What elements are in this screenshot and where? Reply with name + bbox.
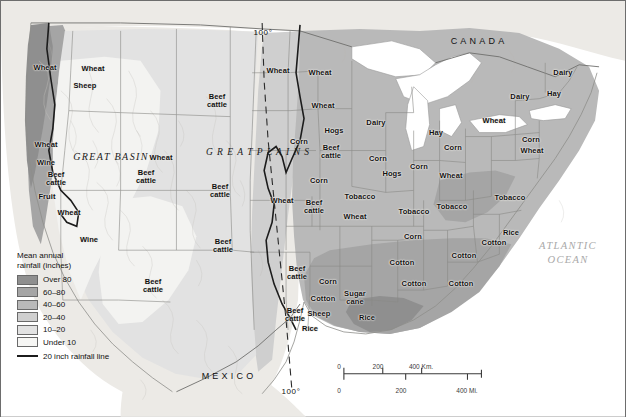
scale-km-200: 200 bbox=[373, 363, 384, 370]
legend-swatch bbox=[17, 275, 38, 285]
legend-swatch bbox=[17, 337, 38, 347]
legend-row: 40–60 bbox=[17, 299, 109, 310]
country-label-mexico: MEXICO bbox=[202, 371, 257, 381]
crop-label: Wheat bbox=[312, 102, 335, 110]
crop-label: Wheat bbox=[35, 141, 58, 149]
legend-swatch bbox=[17, 312, 38, 322]
crop-label: Wheat bbox=[440, 172, 463, 180]
crop-label: Hay bbox=[429, 129, 443, 137]
crop-label: Beef cattle bbox=[213, 238, 233, 255]
crop-label: Corn bbox=[290, 138, 308, 146]
region-label-great-plains: G R E A T P L A I N S bbox=[206, 147, 310, 159]
crop-label: Wheat bbox=[521, 147, 544, 155]
rainfall-line-swatch bbox=[17, 355, 38, 357]
crop-label: Wheat bbox=[483, 117, 506, 125]
crop-label: Rice bbox=[302, 325, 318, 333]
legend-class-list: Over 8060–8040–6020–4010–20Under 10 bbox=[17, 274, 109, 348]
crop-label: Hogs bbox=[382, 170, 401, 178]
meridian-label-bottom: 100° bbox=[282, 387, 301, 396]
rainfall-agriculture-map: CANADA MEXICO ATLANTIC OCEAN Gulf of Mex… bbox=[0, 0, 626, 417]
crop-label: Wheat bbox=[271, 197, 294, 205]
crop-label: Beef cattle bbox=[304, 199, 324, 216]
legend-row: Over 80 bbox=[17, 274, 109, 285]
legend-swatch bbox=[17, 287, 38, 297]
crop-label: Tobacco bbox=[345, 193, 376, 201]
crop-label: Wheat bbox=[344, 213, 367, 221]
crop-label: Tobacco bbox=[437, 203, 468, 211]
crop-label: Wheat bbox=[150, 154, 173, 162]
map-legend: Mean annual rainfall (inches) Over 8060–… bbox=[17, 251, 109, 362]
crop-label: Sheep bbox=[307, 310, 330, 318]
crop-label: Fruit bbox=[38, 193, 55, 201]
crop-label: Corn bbox=[522, 136, 540, 144]
crop-label: Corn bbox=[444, 144, 462, 152]
legend-rainfall-line-label: 20 inch rainfall line bbox=[43, 352, 109, 361]
crop-label: Beef cattle bbox=[46, 171, 66, 188]
crop-label: Wheat bbox=[34, 64, 57, 72]
scale-km-0: 0 bbox=[337, 363, 341, 370]
crop-label: Wheat bbox=[309, 69, 332, 77]
meridian-label-top: 100° bbox=[254, 28, 273, 37]
crop-label: Corn bbox=[404, 233, 422, 241]
crop-label: Beef cattle bbox=[210, 183, 230, 200]
crop-label: Dairy bbox=[366, 119, 385, 127]
legend-label: Over 80 bbox=[43, 275, 71, 284]
crop-label: Beef cattle bbox=[143, 278, 163, 295]
crop-label: Rice bbox=[503, 229, 519, 237]
crop-label: Beef cattle bbox=[321, 144, 341, 161]
scale-mi-200: 200 bbox=[396, 387, 407, 394]
crop-label: Cotton bbox=[482, 239, 507, 247]
crop-label: Corn bbox=[369, 155, 387, 163]
crop-label: Wine bbox=[37, 159, 55, 167]
legend-label: Under 10 bbox=[43, 338, 76, 347]
crop-label: Hogs bbox=[324, 127, 343, 135]
legend-label: 10–20 bbox=[43, 325, 65, 334]
legend-label: 60–80 bbox=[43, 288, 65, 297]
map-frame: CANADA MEXICO ATLANTIC OCEAN Gulf of Mex… bbox=[0, 0, 626, 417]
crop-label: Corn bbox=[319, 278, 337, 286]
crop-label: Corn bbox=[410, 163, 428, 171]
crop-label: Beef cattle bbox=[287, 265, 307, 282]
legend-title: Mean annual rainfall (inches) bbox=[17, 251, 109, 270]
crop-label: Cotton bbox=[402, 280, 427, 288]
crop-label: Sheep bbox=[73, 82, 96, 90]
crop-label: Wine bbox=[80, 236, 98, 244]
crop-label: Hay bbox=[547, 90, 561, 98]
crop-label: Beef cattle bbox=[136, 169, 156, 186]
crop-label: Tobacco bbox=[399, 208, 430, 216]
crop-label: Dairy bbox=[553, 69, 572, 77]
legend-row: 10–20 bbox=[17, 324, 109, 335]
legend-label: 20–40 bbox=[43, 313, 65, 322]
country-label-canada: CANADA bbox=[451, 36, 508, 46]
legend-row: Under 10 bbox=[17, 337, 109, 348]
crop-label: Rice bbox=[359, 314, 375, 322]
region-label-great-basin: GREAT BASIN bbox=[73, 151, 149, 162]
ocean-label-atlantic: ATLANTIC OCEAN bbox=[539, 239, 597, 267]
crop-label: Wheat bbox=[267, 67, 290, 75]
ocean-label-gulf-of-mexico: Gulf of Mexico bbox=[372, 345, 439, 355]
crop-label: Corn bbox=[310, 177, 328, 185]
crop-label: Wheat bbox=[82, 65, 105, 73]
crop-label: Cotton bbox=[390, 259, 415, 267]
legend-label: 40–60 bbox=[43, 300, 65, 309]
scale-bar: 0 200 400 Km. 0 200 400 Mi. bbox=[339, 363, 494, 405]
legend-swatch bbox=[17, 325, 38, 335]
scale-mi-0: 0 bbox=[337, 387, 341, 394]
crop-label: Beef cattle bbox=[207, 93, 227, 110]
crop-label: Cotton bbox=[311, 295, 336, 303]
scale-mi-400: 400 Mi. bbox=[456, 387, 477, 394]
crop-label: Tobacco bbox=[495, 194, 526, 202]
crop-label: Wheat bbox=[58, 209, 81, 217]
crop-label: Sugar cane bbox=[344, 290, 366, 307]
crop-label: Dairy bbox=[510, 93, 529, 101]
legend-row: 20–40 bbox=[17, 312, 109, 323]
crop-label: Cotton bbox=[449, 280, 474, 288]
crop-label: Cotton bbox=[452, 252, 477, 260]
crop-label: Beef cattle bbox=[285, 307, 305, 324]
scale-km-400: 400 Km. bbox=[409, 363, 433, 370]
legend-rainfall-line-row: 20 inch rainfall line bbox=[17, 351, 109, 362]
legend-swatch bbox=[17, 300, 38, 310]
legend-row: 60–80 bbox=[17, 287, 109, 298]
